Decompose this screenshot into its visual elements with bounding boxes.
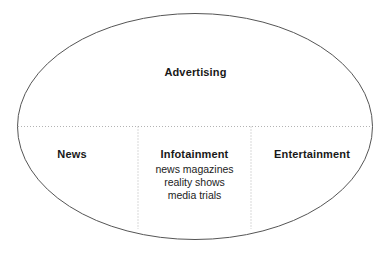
region-label-entertainment: Entertainment: [251, 148, 373, 161]
infotainment-item: news magazines: [138, 163, 251, 176]
advertising-title: Advertising: [0, 66, 391, 79]
diagram-canvas: Advertising News Infotainment news magaz…: [0, 0, 391, 253]
news-title: News: [17, 148, 127, 161]
infotainment-item: media trials: [138, 189, 251, 202]
infotainment-item: reality shows: [138, 176, 251, 189]
infotainment-title: Infotainment: [138, 148, 251, 161]
region-label-news: News: [17, 148, 127, 161]
infotainment-item-list: news magazines reality shows media trial…: [138, 163, 251, 202]
region-label-infotainment: Infotainment news magazines reality show…: [138, 148, 251, 202]
diagram-label-layer: Advertising News Infotainment news magaz…: [0, 0, 391, 253]
region-label-advertising: Advertising: [0, 66, 391, 79]
entertainment-title: Entertainment: [251, 148, 373, 161]
